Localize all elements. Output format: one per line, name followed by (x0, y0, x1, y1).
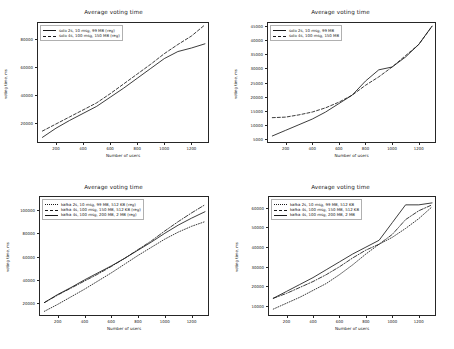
chart-panel-top-left: Average voting time200004000060000800002… (0, 0, 227, 175)
chart-panel-bottom-left: Average voting time200004000060000800001… (0, 175, 227, 349)
legend-label: solo 4s, 100 msg, 150 MB (reg) (59, 33, 120, 38)
chart-legend: kafka 2s, 10 msg, 99 MB, 512 KB (reg)kaf… (42, 199, 144, 220)
legend-line-sample (43, 33, 56, 38)
legend-label: solo 4s, 100 msg, 150 MB (289, 33, 339, 38)
legend-item[interactable]: kafka 4s, 100 msg, 200 MB, 2 MB (reg) (45, 212, 140, 217)
legend-line-sample (45, 212, 58, 217)
series-line (272, 26, 432, 136)
series-line (44, 222, 205, 312)
chart-legend: kafka 2s, 10 msg, 99 MB, 512 KBkafka 4s,… (271, 199, 362, 220)
legend-label: kafka 4s, 100 msg, 200 MB, 2 MB (reg) (61, 212, 137, 217)
figure-grid: Average voting time200004000060000800002… (0, 0, 454, 349)
legend-item[interactable]: kafka 4s, 100 msg, 200 MB, 2 MB (274, 212, 359, 217)
legend-item[interactable]: solo 4s, 100 msg, 150 MB (reg) (43, 33, 119, 38)
legend-item[interactable]: solo 4s, 100 msg, 150 MB (273, 33, 339, 38)
chart-legend: solo 2s, 10 msg, 99 MB (reg)solo 4s, 100… (40, 25, 123, 41)
chart-panel-top-right: Average voting time500010000150002000025… (227, 0, 454, 175)
chart-panel-bottom-right: Average voting time100002000030000400005… (227, 175, 454, 349)
series-line (273, 207, 432, 309)
legend-line-sample (274, 212, 287, 217)
legend-line-sample (273, 33, 286, 38)
legend-label: kafka 4s, 100 msg, 200 MB, 2 MB (290, 212, 355, 217)
series-line (42, 44, 205, 138)
series-line (44, 212, 205, 303)
chart-legend: solo 2s, 10 msg, 99 MBsolo 4s, 100 msg, … (270, 25, 342, 41)
